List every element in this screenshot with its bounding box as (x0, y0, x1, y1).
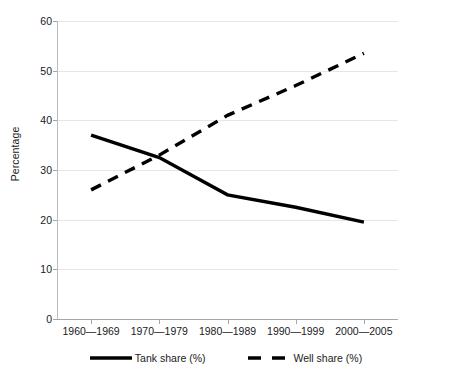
series-line (91, 53, 364, 190)
x-tick-mark (296, 320, 297, 324)
y-axis-tick-labels: 0102030405060 (16, 0, 52, 376)
x-tick-mark (159, 320, 160, 324)
series-lines (57, 21, 398, 319)
line-chart: Percentage 0102030405060 1960—19691970—1… (0, 0, 451, 376)
dashed-line-swatch-icon (247, 353, 291, 363)
y-tick-mark (53, 319, 57, 320)
x-tick-label: 2000—2005 (309, 325, 419, 337)
x-axis-tick-labels: 1960—19691970—19791980—19891990—19992000… (57, 325, 398, 341)
x-tick-mark (228, 320, 229, 324)
solid-line-swatch-icon (89, 353, 133, 363)
y-tick-label: 0 (18, 314, 52, 325)
y-tick-label: 20 (18, 215, 52, 226)
legend-item[interactable]: Tank share (%) (89, 352, 206, 364)
legend-item[interactable]: Well share (%) (247, 352, 362, 364)
y-tick-label: 50 (18, 66, 52, 77)
y-tick-label: 60 (18, 16, 52, 27)
y-tick-label: 10 (18, 264, 52, 275)
plot-area (57, 21, 398, 319)
x-tick-mark (364, 320, 365, 324)
series-line (91, 135, 364, 222)
x-tick-mark (91, 320, 92, 324)
chart-legend: Tank share (%)Well share (%) (0, 352, 451, 364)
y-tick-label: 40 (18, 115, 52, 126)
legend-label: Tank share (%) (135, 352, 206, 364)
legend-label: Well share (%) (293, 352, 362, 364)
y-tick-label: 30 (18, 165, 52, 176)
